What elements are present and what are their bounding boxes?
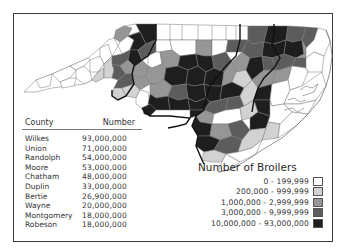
table-row: Robeson18,000,000 bbox=[22, 220, 142, 230]
legend-item: 0 - 199,999 bbox=[194, 176, 334, 187]
broiler-count: 93,000,000 bbox=[82, 134, 142, 144]
legend-item: 1,000,000 - 2,999,999 bbox=[194, 197, 334, 208]
legend-swatch bbox=[313, 177, 323, 186]
legend-title: Number of Broilers bbox=[194, 161, 334, 173]
county-name: Robeson bbox=[22, 220, 82, 230]
broiler-count: 20,000,000 bbox=[82, 201, 142, 211]
legend-label: 10,000,000 - 93,000,000 bbox=[211, 219, 309, 228]
county-name: Duplin bbox=[22, 182, 82, 192]
table-row: Union71,000,000 bbox=[22, 144, 142, 154]
county-name: Montgomery bbox=[22, 211, 82, 221]
broiler-count: 18,000,000 bbox=[82, 220, 142, 230]
broiler-count: 33,000,000 bbox=[82, 182, 142, 192]
legend-swatch bbox=[313, 187, 323, 196]
broiler-count: 53,000,000 bbox=[82, 163, 142, 173]
county-name: Wilkes bbox=[22, 134, 82, 144]
legend-item: 3,000,000 - 9,999,999 bbox=[194, 208, 334, 219]
county-name: Wayne bbox=[22, 201, 82, 211]
broiler-count: 18,000,000 bbox=[82, 211, 142, 221]
county-column-header: County bbox=[25, 118, 54, 127]
table-row: Randolph54,000,000 bbox=[22, 153, 142, 163]
legend-label: 1,000,000 - 2,999,999 bbox=[221, 198, 309, 207]
legend-label: 200,000 - 999,999 bbox=[236, 187, 309, 196]
county-name: Bertie bbox=[22, 192, 82, 202]
table-row: Duplin33,000,000 bbox=[22, 182, 142, 192]
top-counties-table: County Number Wilkes93,000,000 Union71,0… bbox=[22, 118, 142, 230]
table-row: Wilkes93,000,000 bbox=[22, 134, 142, 144]
county-name: Union bbox=[22, 144, 82, 154]
legend-item: 10,000,000 - 93,000,000 bbox=[194, 218, 334, 229]
county-name: Moore bbox=[22, 163, 82, 173]
broiler-count: 48,000,000 bbox=[82, 172, 142, 182]
legend-swatch bbox=[313, 219, 323, 228]
table-row: Wayne20,000,000 bbox=[22, 201, 142, 211]
legend-label: 0 - 199,999 bbox=[264, 177, 309, 186]
county-name: Chatham bbox=[22, 172, 82, 182]
broiler-count: 71,000,000 bbox=[82, 144, 142, 154]
legend-swatch bbox=[313, 198, 323, 207]
table-row: Chatham48,000,000 bbox=[22, 172, 142, 182]
county-name: Randolph bbox=[22, 153, 82, 163]
legend-label: 3,000,000 - 9,999,999 bbox=[221, 208, 309, 217]
table-row: Moore53,000,000 bbox=[22, 163, 142, 173]
legend-item: 200,000 - 999,999 bbox=[194, 187, 334, 198]
table-row: Montgomery18,000,000 bbox=[22, 211, 142, 221]
broiler-count: 26,900,000 bbox=[82, 192, 142, 202]
table-header: County Number bbox=[22, 118, 142, 130]
legend-swatch bbox=[313, 208, 323, 217]
table-row: Bertie26,900,000 bbox=[22, 192, 142, 202]
broiler-count: 54,000,000 bbox=[82, 153, 142, 163]
map-legend: Number of Broilers 0 - 199,999 200,000 -… bbox=[194, 161, 334, 229]
number-column-header: Number bbox=[103, 118, 135, 127]
